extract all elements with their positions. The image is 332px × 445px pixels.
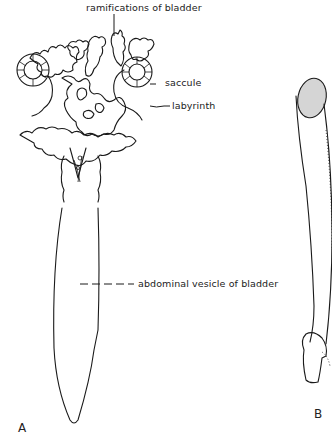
label-saccule: saccule (165, 77, 201, 88)
left-labyrinth-drawing (17, 54, 53, 116)
right-labyrinth-drawing (114, 57, 152, 120)
leader-lines (80, 14, 170, 284)
bladder-ramifications-drawing (20, 30, 154, 166)
panel-letter-a: A (18, 421, 26, 435)
panel-letter-b: B (314, 407, 322, 421)
illustration-drawing (0, 0, 332, 445)
label-abdominal-vesicle-of-bladder: abdominal vesicle of bladder (138, 278, 278, 289)
anatomical-figure: ramifications of bladder saccule labyrin… (0, 0, 332, 445)
label-labyrinth: labyrinth (172, 100, 215, 111)
abdominal-vesicle-drawing (54, 148, 101, 423)
structure-b-drawing (294, 76, 332, 383)
label-ramifications-of-bladder: ramifications of bladder (86, 2, 202, 13)
